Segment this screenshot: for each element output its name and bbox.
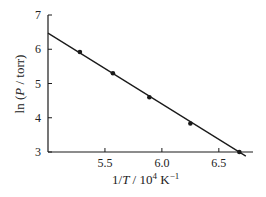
- x-tick-label: 6.5: [211, 156, 226, 170]
- chart: 345675.56.06.5 1/T / 104 K−1 ln (P / tor…: [0, 0, 266, 197]
- y-tick-label: 5: [35, 77, 41, 91]
- data-point: [147, 95, 152, 100]
- x-axis-label: 1/T / 104 K−1: [112, 171, 179, 187]
- y-tick-label: 7: [35, 8, 41, 22]
- x-tick-label: 5.5: [97, 156, 112, 170]
- y-axis-label: ln (P / torr): [12, 55, 27, 114]
- y-tick-label: 3: [35, 145, 41, 159]
- y-tick-label: 4: [35, 111, 41, 125]
- data-point: [188, 121, 193, 126]
- axes: [48, 15, 253, 152]
- y-tick-label: 6: [35, 42, 41, 56]
- data-point: [111, 71, 116, 76]
- data-point: [78, 50, 83, 55]
- x-tick-label: 6.0: [154, 156, 169, 170]
- ticks: 345675.56.06.5: [35, 8, 226, 170]
- data-point: [237, 150, 242, 155]
